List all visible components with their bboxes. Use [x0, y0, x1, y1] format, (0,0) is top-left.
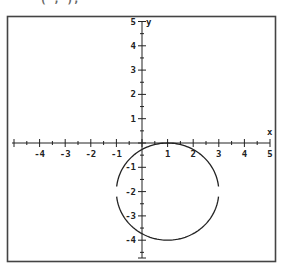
y-tick-label: 1	[131, 114, 136, 124]
x-tick-label: -3	[60, 149, 71, 159]
y-tick-label: -3	[125, 211, 136, 221]
y-tick-label: 3	[131, 65, 136, 75]
x-tick-label: 1	[165, 149, 170, 159]
x-axis-label: x	[267, 127, 273, 137]
x-tick-label: -4	[34, 149, 45, 159]
y-tick-label: 4	[131, 41, 137, 51]
y-tick-label: -1	[125, 162, 136, 172]
y-axis-label: y	[146, 17, 152, 27]
y-tick-label: 5	[131, 17, 136, 27]
x-tick-label: 4	[242, 149, 248, 159]
x-tick-label: 3	[216, 149, 221, 159]
x-tick-label: 5	[267, 149, 272, 159]
x-tick-label: -1	[111, 149, 122, 159]
y-tick-label: 2	[131, 89, 136, 99]
y-tick-label: -2	[125, 187, 136, 197]
x-tick-label: -2	[85, 149, 96, 159]
graph-chart: -4-3-2-11234554321-1-2-3-4xy	[0, 0, 281, 272]
y-tick-label: -4	[125, 235, 136, 245]
